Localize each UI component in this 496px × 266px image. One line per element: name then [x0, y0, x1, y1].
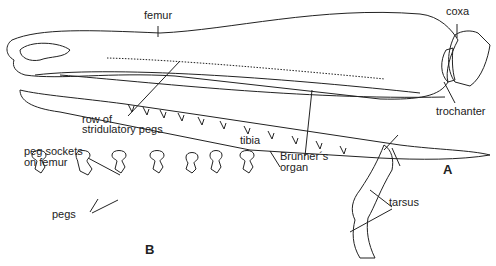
peg-row-line	[107, 58, 385, 79]
label-on-femur: on femur	[24, 157, 67, 168]
label-trochanter: trochanter	[436, 106, 486, 117]
label-femur: femur	[144, 10, 172, 21]
label-organ: organ	[280, 162, 308, 173]
femur-cavity	[20, 43, 70, 60]
femur-outline	[7, 12, 458, 99]
label-tibia: tibia	[240, 135, 260, 146]
label-coxa: coxa	[446, 6, 469, 17]
label-pegs: pegs	[52, 209, 76, 220]
insect-leg-diagram: femur coxa trochanter row of stridulator…	[0, 0, 496, 266]
tarsus-outline	[352, 145, 392, 258]
panel-letter-b: B	[145, 244, 154, 255]
leg-drawing	[0, 0, 496, 266]
label-tarsus: tarsus	[389, 197, 419, 208]
label-stridulatory-pegs: stridulatory pegs	[82, 124, 163, 135]
panel-letter-a: A	[443, 164, 452, 175]
